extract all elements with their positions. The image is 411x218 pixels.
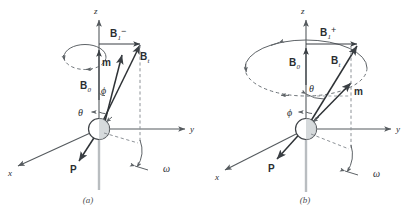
panel-a: z y x B 1 − B 0 (0, 0, 205, 218)
bt-label: B (331, 55, 338, 66)
b1-vector: B 1 + (306, 25, 357, 45)
y-axis: y (99, 124, 194, 134)
z-axis: z (300, 6, 306, 192)
b1-label: B (110, 28, 117, 39)
x-axis: x (214, 129, 306, 182)
b0-subscript: 0 (88, 86, 92, 94)
bt-label: B (140, 51, 147, 62)
omega-arc: ω (135, 140, 170, 174)
z-axis-label: z (300, 6, 305, 16)
b1-superscript: + (331, 25, 336, 35)
z-axis: z (93, 6, 99, 190)
bt-subscript: t (148, 57, 151, 65)
m-label: m (354, 86, 363, 97)
omega-label: ω (373, 168, 380, 179)
bt-subscript: t (339, 61, 342, 69)
b1-vector: B 1 − (99, 26, 140, 45)
phi-label: ϕ (101, 85, 106, 96)
figure-container: z y x B 1 − B 0 (0, 0, 411, 218)
y-axis: y (306, 124, 400, 134)
panel-b-caption: (b) (300, 195, 311, 205)
precession-ellipse (63, 45, 106, 70)
x-axis-label: x (7, 168, 12, 178)
omega-label: ω (163, 163, 170, 174)
p-label: P (268, 163, 275, 174)
b0-label: B (289, 57, 296, 68)
y-axis-label: y (189, 124, 194, 134)
panel-a-caption: (a) (83, 195, 94, 205)
omega-arc: ω (345, 145, 380, 179)
theta-label: θ (309, 83, 314, 94)
phi-label: ϕ (287, 107, 292, 118)
x-axis-label: x (214, 172, 219, 182)
b1-superscript: − (121, 26, 126, 36)
z-axis-label: z (93, 6, 98, 16)
panel-b: z y x B 1 + B 0 (205, 0, 411, 218)
p-label: P (70, 164, 77, 175)
y-axis-label: y (395, 124, 400, 134)
theta-angle: θ (78, 107, 106, 118)
b0-vector: B 0 (289, 48, 306, 85)
m-label: m (102, 57, 111, 68)
theta-label: θ (78, 107, 83, 118)
b0-label: B (80, 80, 87, 91)
b0-subscript: 0 (297, 63, 301, 71)
b0-vector: B 0 (80, 50, 99, 100)
x-axis: x (7, 129, 99, 178)
b1-label: B (320, 27, 327, 38)
